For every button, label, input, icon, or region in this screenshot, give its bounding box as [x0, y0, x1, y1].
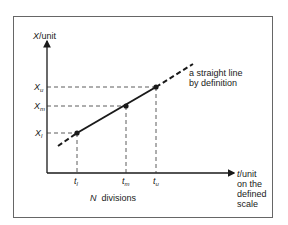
x-tick-middle: tm — [122, 176, 130, 189]
y-tick-middle: Xm — [34, 101, 45, 114]
line-annotation: a straight line by definition — [189, 68, 243, 88]
point-upper — [153, 84, 158, 89]
x-tick-lower: tl — [74, 176, 78, 189]
x-axis-label: t/unit on the defined scale — [237, 169, 267, 209]
y-axis-unit: /unit — [39, 31, 56, 41]
y-tick-upper: Xu — [34, 82, 43, 95]
guide-lines — [47, 87, 156, 173]
x-tick-upper: tu — [153, 176, 159, 189]
point-lower — [74, 130, 79, 135]
calibration-line — [77, 87, 156, 133]
point-middle — [123, 103, 128, 108]
line-extension-lower — [58, 133, 77, 146]
divisions-label: N divisions — [90, 193, 136, 203]
y-axis-label: X/unit — [33, 31, 56, 41]
y-tick-lower: Xl — [35, 128, 42, 141]
outer-frame — [14, 17, 273, 218]
line-extension-upper — [156, 64, 193, 87]
